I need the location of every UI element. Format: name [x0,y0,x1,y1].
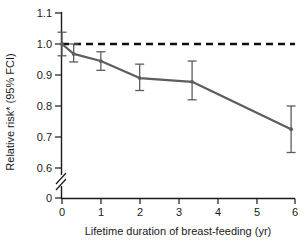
x-tick-label: 4 [215,206,221,218]
x-tick-label: 1 [98,206,104,218]
data-point [138,76,142,80]
y-tick-label: 0 [46,192,52,204]
x-tick-label: 6 [292,206,298,218]
x-tick-label: 2 [137,206,143,218]
x-tick-label: 0 [59,206,65,218]
relative-risk-trend-line [62,44,291,129]
relative-risk-line-chart: Relative risk* (95% FCI) 1.1 1.0 0.9 0.8… [0,0,307,247]
y-tick-label: 0.6 [37,162,52,174]
chart-figure: Relative risk* (95% FCI) 1.1 1.0 0.9 0.8… [0,0,307,247]
x-tick-label: 3 [176,206,182,218]
data-series-group [58,32,296,152]
data-point [60,42,64,46]
y-tick-label: 1.0 [37,38,52,50]
data-point [289,127,293,131]
y-tick-label: 0.9 [37,69,52,81]
y-tick-label: 0.8 [37,100,52,112]
y-tick-label: 0.7 [37,131,52,143]
data-point [99,59,103,63]
data-point [190,80,194,84]
y-tick-label: 1.1 [37,7,52,19]
data-point [72,52,76,56]
y-axis-title: Relative risk* (95% FCI) [4,53,16,170]
x-axis-title: Lifetime duration of breast-feeding (yr) [85,225,271,237]
x-tick-label: 5 [254,206,260,218]
